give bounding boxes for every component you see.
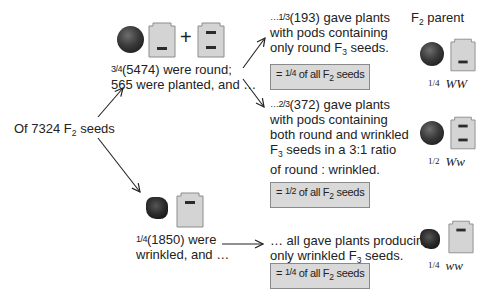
wrinkled-count: (1850) were	[147, 232, 216, 247]
wrinkled-seed-icon	[146, 197, 168, 219]
gene-heterozygous-icon	[197, 22, 225, 58]
genotype-wwr: 1/4ww	[428, 258, 463, 274]
root-suffix: seeds	[77, 121, 115, 136]
t-post: seeds.	[347, 40, 389, 55]
parent-wwr-seed-icon	[420, 229, 440, 249]
outcome-Ww-line-5: of round : wrinkled.	[270, 162, 409, 177]
box-eq: =	[276, 68, 285, 80]
t: F	[270, 142, 278, 157]
genotype-wwr-label: ww	[446, 258, 463, 273]
outcome-ww-line-3: only round F3 seeds.	[270, 40, 390, 60]
ellipsis: …	[270, 12, 279, 22]
t: only round F	[270, 40, 342, 55]
wrinkled-line-2: wrinkled, and …	[136, 247, 229, 262]
root-label: Of 7324 F2 seeds	[14, 121, 115, 141]
round-line-1: 3/4(5474) were round;	[111, 62, 256, 77]
t-post: seeds in a 3:1 ratio	[283, 142, 396, 157]
genotype-ww: 1/4WW	[428, 76, 467, 92]
box-post: seeds	[334, 267, 365, 279]
parent-wwr-gene-icon	[448, 220, 474, 254]
outcome-Ww-line-4: F3 seeds in a 3:1 ratio	[270, 142, 409, 162]
genotype-Ww: 1/2Ww	[428, 154, 465, 170]
gene-dominant-icon	[148, 22, 176, 58]
outcome-ww-count: (193) gave plants	[290, 10, 390, 25]
root-prefix: Of 7324 F	[14, 121, 72, 136]
box-mid: of all F	[296, 267, 329, 279]
parent-Ww-gene-icon	[450, 116, 476, 150]
outcome-Ww-count: (372) gave plants	[290, 97, 390, 112]
outcome-ww-line-2: with pods containing	[270, 25, 390, 40]
outcome-Ww-fraction: 2/3	[279, 99, 290, 109]
proportion-box-wwr: = 1/4 of all F2 seeds	[270, 263, 370, 289]
box-mid: of all F	[296, 186, 329, 198]
round-line-2: 565 were planted, and …	[111, 77, 256, 92]
round-count: (5474) were round;	[122, 62, 232, 77]
genotype-Ww-label: Ww	[446, 154, 466, 169]
arrow-root-to-round	[98, 88, 123, 117]
outcome-Ww-line-3: both round and wrinkled	[270, 127, 409, 142]
box-frac: 1/2	[285, 186, 296, 196]
round-seed-icon	[117, 26, 144, 53]
plus-sign: +	[180, 26, 192, 49]
wrinkled-branch-text: 1/4(1850) were wrinkled, and …	[136, 232, 229, 262]
proportion-box-ww: = 1/4 of all F2 seeds	[270, 64, 370, 90]
outcome-Ww-line-1: …2/3(372) gave plants	[270, 97, 409, 112]
t: only wrinkled F	[270, 248, 357, 263]
wrinkled-line-1: 1/4(1850) were	[136, 232, 229, 247]
wrinkled-fraction: 1/4	[136, 234, 147, 244]
column-header-f2-parent: F2 parent	[411, 10, 464, 30]
box-eq: =	[276, 267, 285, 279]
box-post: seeds	[334, 186, 365, 198]
outcome-wwr-line-1: … all gave plants producing	[270, 233, 430, 248]
outcome-ww-text: …1/3(193) gave plants with pods containi…	[270, 10, 390, 60]
box-frac: 1/4	[285, 267, 296, 277]
genotype-ww-frac: 1/4	[428, 78, 440, 88]
outcome-ww-fraction: 1/3	[279, 12, 290, 22]
parent-ww-seed-icon	[420, 42, 444, 66]
parent-ww-gene-icon	[450, 38, 476, 72]
genotype-ww-label: WW	[446, 76, 468, 91]
header-f: F	[411, 10, 419, 25]
box-post: seeds	[334, 68, 365, 80]
box-frac: 1/4	[285, 68, 296, 78]
genotype-wwr-frac: 1/4	[428, 260, 440, 270]
header-suffix: parent	[424, 10, 464, 25]
outcome-Ww-line-2: with pods containing	[270, 112, 409, 127]
round-fraction: 3/4	[111, 64, 122, 74]
parent-Ww-seed-icon	[420, 121, 444, 145]
outcome-ww-line-1: …1/3(193) gave plants	[270, 10, 390, 25]
genotype-Ww-frac: 1/2	[428, 156, 440, 166]
box-eq: =	[276, 186, 285, 198]
arrow-root-to-wrinkled	[98, 138, 140, 192]
gene-recessive-icon	[176, 192, 204, 228]
outcome-Ww-text: …2/3(372) gave plants with pods containi…	[270, 97, 409, 177]
ellipsis: …	[270, 99, 279, 109]
t-post: seeds.	[361, 248, 403, 263]
proportion-box-Ww: = 1/2 of all F2 seeds	[270, 182, 370, 208]
box-mid: of all F	[296, 68, 329, 80]
round-branch-text: 3/4(5474) were round; 565 were planted, …	[111, 62, 256, 92]
